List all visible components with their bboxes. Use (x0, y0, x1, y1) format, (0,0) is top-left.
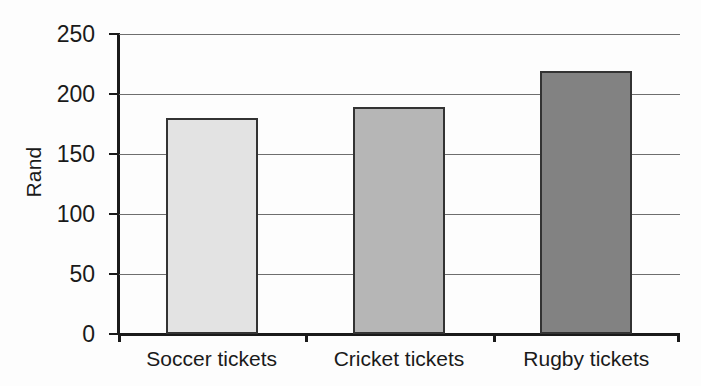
y-axis-tick-label: 200 (33, 83, 95, 106)
x-axis-tick-mark (305, 333, 308, 342)
x-axis-category-label: Rugby tickets (523, 347, 649, 371)
y-axis-tick-mark (109, 33, 119, 35)
x-axis-category-label: Soccer tickets (146, 347, 277, 371)
y-axis-tick-labels: 050100150200250 (33, 0, 95, 386)
x-axis-tick-mark (118, 333, 121, 342)
y-axis-tick-mark (109, 93, 119, 95)
x-axis-category-label: Cricket tickets (334, 347, 465, 371)
y-axis-tick-label: 150 (33, 143, 95, 166)
y-axis-tick-label: 250 (33, 23, 95, 46)
bar (353, 107, 445, 334)
y-axis-tick-mark (109, 213, 119, 215)
bar-chart: Rand 050100150200250 Soccer ticketsCrick… (0, 0, 701, 386)
bar (540, 71, 632, 334)
plot-area (118, 34, 680, 334)
y-axis-tick-label: 100 (33, 203, 95, 226)
y-axis-tick-label: 50 (33, 263, 95, 286)
y-axis-tick-mark (109, 153, 119, 155)
bar (166, 118, 258, 334)
gridline (118, 34, 680, 35)
y-axis-tick-label: 0 (33, 323, 95, 346)
x-axis-tick-mark (677, 333, 680, 342)
y-axis-tick-mark (109, 273, 119, 275)
x-axis-tick-mark (493, 333, 496, 342)
